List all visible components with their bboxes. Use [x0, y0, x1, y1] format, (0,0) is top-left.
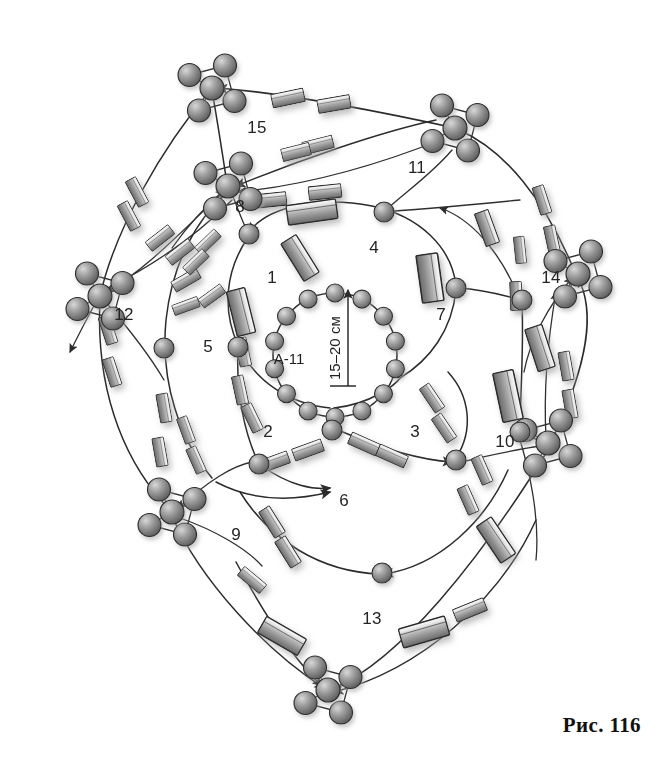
- charge-cylinder: [471, 454, 493, 485]
- loop-6: [240, 492, 380, 574]
- cluster-sphere: [204, 197, 227, 220]
- number-label-13: 13: [362, 609, 381, 628]
- charge-cylinder: [308, 184, 342, 201]
- cluster-sphere: [421, 130, 444, 153]
- cluster-hub-sphere: [316, 678, 340, 702]
- charge-cylinder: [291, 439, 324, 461]
- dimension-label: 15–20 см: [326, 316, 343, 380]
- charge-cylinder: [513, 236, 527, 264]
- cluster-sphere: [66, 298, 89, 321]
- charge-cylinder-large: [281, 235, 320, 282]
- cluster-sphere: [457, 139, 480, 162]
- charge-cylinder: [275, 536, 302, 569]
- number-label-14: 14: [541, 268, 560, 287]
- number-label-8: 8: [235, 197, 245, 216]
- cluster-upper-right: [421, 94, 489, 162]
- cluster-sphere: [76, 262, 99, 285]
- charge-cylinder: [195, 229, 222, 255]
- cluster-sphere: [148, 478, 171, 501]
- charge-cylinder: [375, 444, 408, 468]
- ring-sphere: [353, 402, 371, 420]
- cluster-bottom: [294, 656, 362, 724]
- cable-segment: [518, 434, 537, 560]
- cluster-sphere: [466, 104, 489, 127]
- number-label-5: 5: [203, 337, 213, 356]
- cluster-sphere: [330, 701, 353, 724]
- dimension-annotation: 15–20 см: [326, 290, 356, 386]
- charge-cylinder: [198, 284, 226, 309]
- cable-segment: [334, 450, 548, 688]
- number-label-3: 3: [410, 422, 420, 441]
- cluster-sphere: [188, 99, 211, 122]
- charge-cylinder: [474, 209, 499, 246]
- cluster-top: [178, 54, 246, 122]
- charge-cylinder: [347, 432, 380, 456]
- cluster-sphere: [431, 94, 454, 117]
- ring-sphere: [299, 290, 317, 308]
- figure-caption: Рис. 116: [563, 713, 641, 738]
- ring-sphere: [278, 307, 296, 325]
- ring-sphere: [326, 284, 344, 302]
- number-label-10: 10: [495, 432, 514, 451]
- number-label-9: 9: [231, 525, 241, 544]
- cluster-sphere: [230, 152, 253, 175]
- cluster-sphere: [559, 445, 582, 468]
- node-sphere: [512, 290, 532, 310]
- cluster-sphere: [339, 666, 362, 689]
- cluster-sphere: [194, 162, 217, 185]
- ring-sphere: [375, 307, 393, 325]
- cluster-sphere: [304, 656, 327, 679]
- ring-sphere: [386, 332, 404, 350]
- center-code-label: А-11: [274, 350, 305, 367]
- charge-cylinder: [156, 393, 173, 423]
- charge-cylinder-large: [398, 616, 450, 648]
- cluster-hub-sphere: [536, 431, 560, 455]
- charge-cylinder-large: [493, 369, 524, 422]
- figure-root: 15–20 см А-11 123456789101112131415 Рис.…: [0, 0, 663, 760]
- cluster-upper-left: [194, 152, 262, 220]
- ring-sphere: [299, 402, 317, 420]
- charge-cylinder: [532, 184, 552, 215]
- cluster-lower-left: [138, 478, 206, 546]
- cluster-sphere: [174, 523, 197, 546]
- charge-cylinder: [231, 375, 248, 406]
- cluster-sphere: [589, 276, 612, 299]
- ring-sphere: [375, 385, 393, 403]
- number-label-15: 15: [247, 118, 266, 137]
- cluster-sphere: [138, 514, 161, 537]
- cluster-sphere: [580, 240, 603, 263]
- loop-3-b: [448, 372, 467, 458]
- cluster-hub-sphere: [216, 174, 240, 198]
- node-sphere: [372, 563, 392, 583]
- cable-segment: [172, 516, 324, 688]
- cluster-hub-sphere: [88, 284, 112, 308]
- cable-segment: [378, 200, 520, 212]
- node-sphere: [446, 278, 466, 298]
- number-label-6: 6: [339, 491, 349, 510]
- charge-cylinder: [558, 351, 575, 381]
- node-sphere: [374, 202, 394, 222]
- cluster-lower-right: [514, 409, 582, 477]
- node-sphere: [239, 224, 259, 244]
- cluster-hub-sphere: [443, 116, 467, 140]
- cluster-sphere: [214, 54, 237, 77]
- number-label-1: 1: [267, 268, 277, 287]
- cluster-sphere: [111, 272, 134, 295]
- cluster-sphere: [223, 90, 246, 113]
- ring-sphere: [386, 360, 404, 378]
- charge-cylinder: [145, 225, 175, 252]
- charge-cylinder-large: [476, 517, 516, 564]
- charge-cylinder-large: [257, 616, 306, 655]
- charge-cylinder: [457, 484, 479, 515]
- node-sphere: [249, 454, 269, 474]
- cluster-sphere: [294, 692, 317, 715]
- cluster-sphere: [183, 488, 206, 511]
- node-sphere: [446, 450, 466, 470]
- cluster-sphere: [550, 409, 573, 432]
- charge-cylinder-large: [226, 287, 255, 336]
- node-sphere: [228, 337, 248, 357]
- number-label-2: 2: [263, 422, 273, 441]
- number-label-12: 12: [114, 305, 133, 324]
- node-sphere: [322, 420, 342, 440]
- number-label-4: 4: [369, 238, 379, 257]
